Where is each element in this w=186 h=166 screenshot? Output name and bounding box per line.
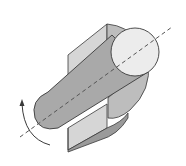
diagram-canvas: Cylinder rotating about its axis through… (0, 0, 186, 166)
cylinder-diagram (0, 0, 186, 166)
cylinder-end-face (111, 28, 159, 76)
